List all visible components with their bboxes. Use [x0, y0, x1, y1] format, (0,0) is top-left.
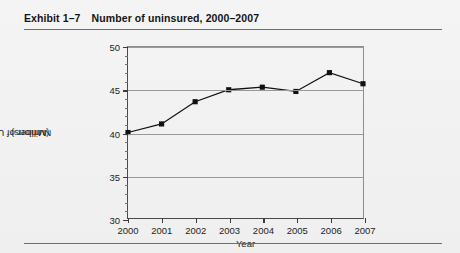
- exhibit-figure: Exhibit 1–7Number of uninsured, 2000–200…: [0, 0, 460, 253]
- y-axis-minor-tick: [125, 151, 128, 152]
- exhibit-heading: Exhibit 1–7Number of uninsured, 2000–200…: [24, 12, 259, 24]
- y-axis-minor-tick: [125, 73, 128, 74]
- x-axis-label: 2006: [321, 225, 342, 236]
- y-axis-minor-tick: [125, 142, 128, 143]
- x-axis-label: 2003: [219, 225, 240, 236]
- x-axis-label: 2004: [253, 225, 274, 236]
- y-axis-label: 30: [109, 215, 120, 226]
- divider-bottom: [24, 243, 442, 244]
- chart-canvas: Number of Uninsured(Millions) 3035404550…: [0, 33, 460, 241]
- y-axis-title: Number of Uninsured(Millions): [8, 46, 28, 219]
- y-axis-minor-tick: [125, 194, 128, 195]
- y-axis-minor-tick: [125, 82, 128, 83]
- x-axis-label: 2007: [354, 225, 375, 236]
- x-axis-tick: [196, 218, 197, 223]
- x-axis-tick: [365, 218, 366, 223]
- data-point-marker: [159, 121, 164, 126]
- data-point-marker: [193, 99, 198, 104]
- y-axis-tick: [123, 47, 128, 48]
- y-axis-minor-tick: [125, 64, 128, 65]
- x-axis-tick: [263, 218, 264, 223]
- y-axis-minor-tick: [125, 56, 128, 57]
- exhibit-number: Exhibit 1–7: [24, 12, 81, 24]
- y-axis-tick: [123, 134, 128, 135]
- y-axis-minor-tick: [125, 99, 128, 100]
- data-series-line: [128, 47, 363, 218]
- y-axis-minor-tick: [125, 159, 128, 160]
- x-axis-label: 2001: [151, 225, 172, 236]
- x-axis-tick: [331, 218, 332, 223]
- exhibit-title-row: Exhibit 1–7Number of uninsured, 2000–200…: [24, 8, 442, 24]
- gridline-y: [128, 47, 363, 48]
- x-axis-tick: [128, 218, 129, 223]
- x-axis-tick: [230, 218, 231, 223]
- y-axis-label: 40: [109, 128, 120, 139]
- gridline-y: [128, 177, 363, 178]
- x-axis-label: 2005: [287, 225, 308, 236]
- y-axis-tick: [123, 177, 128, 178]
- gridline-y: [128, 90, 363, 91]
- y-axis-title-line2: (Millions): [0, 127, 75, 139]
- y-axis-minor-tick: [125, 203, 128, 204]
- y-axis-label: 50: [109, 42, 120, 53]
- y-axis-label: 45: [109, 85, 120, 96]
- plot-area: 3035404550200020012002200320042005200620…: [127, 46, 364, 219]
- y-axis-minor-tick: [125, 168, 128, 169]
- x-axis-tick: [297, 218, 298, 223]
- page-title: Number of uninsured, 2000–2007: [92, 12, 260, 24]
- x-axis-tick: [162, 218, 163, 223]
- y-axis-label: 35: [109, 171, 120, 182]
- y-axis-minor-tick: [125, 125, 128, 126]
- x-axis-label: 2000: [117, 225, 138, 236]
- y-axis-minor-tick: [125, 185, 128, 186]
- y-axis-minor-tick: [125, 116, 128, 117]
- divider-top: [24, 29, 442, 30]
- data-point-marker: [327, 70, 332, 75]
- data-point-marker: [360, 81, 365, 86]
- x-axis-label: 2002: [185, 225, 206, 236]
- y-axis-minor-tick: [125, 211, 128, 212]
- data-point-marker: [260, 85, 265, 90]
- gridline-y: [128, 134, 363, 135]
- y-axis-minor-tick: [125, 108, 128, 109]
- y-axis-tick: [123, 90, 128, 91]
